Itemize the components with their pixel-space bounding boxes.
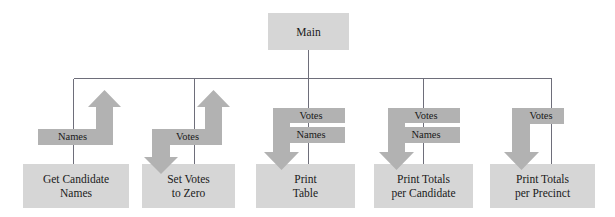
module-box-main [268,13,349,50]
flow-arrow-votes-up-2 [152,90,230,145]
module-box-print-table [256,164,355,208]
flow-arrow-names-up-1 [38,90,121,145]
module-box-print-totals-per-precinct [490,164,595,208]
module-box-get-candidate-names [23,164,129,208]
module-box-set-votes-to-zero [142,164,235,208]
flow-arrow-votes-down-5 [504,108,564,170]
flow-arrow-names-down-4 [379,108,460,170]
module-box-print-totals-per-candidate [374,164,473,208]
structure-chart-diagram: Main Get Candidate Names Set Votes to Ze… [0,0,615,217]
data-flow-arrows [38,90,564,174]
flow-arrow-names-down-3 [264,108,345,170]
connector-lines [74,50,552,165]
diagram-canvas [0,0,615,217]
